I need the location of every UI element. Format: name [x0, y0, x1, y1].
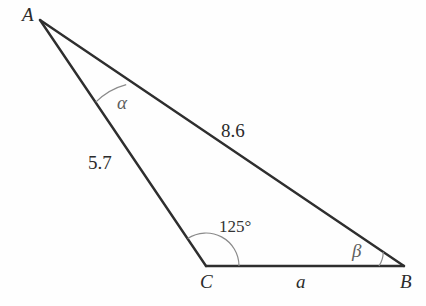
side-label-cb: a	[296, 272, 306, 291]
vertex-label-c: C	[200, 272, 213, 291]
angle-label-beta: β	[352, 241, 361, 260]
side-label-ab: 8.6	[221, 121, 245, 140]
vertex-label-a: A	[22, 5, 34, 24]
triangle-diagram-canvas: A B C 8.6 5.7 a α β 125°	[0, 0, 426, 306]
segment-ac	[40, 20, 206, 266]
side-label-ac: 5.7	[88, 153, 112, 172]
angle-label-c-value: 125°	[219, 218, 251, 235]
vertex-label-b: B	[400, 272, 412, 291]
angle-arc-b	[379, 252, 383, 266]
angle-label-alpha: α	[117, 93, 127, 112]
triangle-figure	[0, 0, 426, 306]
